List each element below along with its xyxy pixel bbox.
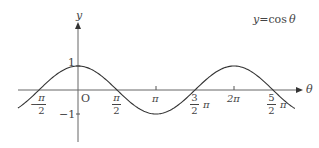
- title-theta: θ: [289, 13, 296, 26]
- y-tick-1: 1: [68, 57, 75, 68]
- chart-title: y=cos θ: [253, 13, 296, 26]
- x-tick-neg-half-pi: π2: [37, 93, 46, 116]
- x-axis-arrow-icon: [296, 87, 303, 93]
- x-tick-five-half-pi-suffix: π: [280, 100, 287, 110]
- x-axis-label: θ: [306, 84, 313, 95]
- x-tick-three-half-pi: 32: [190, 93, 199, 116]
- y-tick-minus-1: −1: [59, 109, 75, 120]
- y-axis-label: y: [76, 10, 82, 21]
- title-cos: cos: [268, 13, 286, 26]
- x-tick-pi: π: [152, 94, 159, 104]
- x-tick-five-half-pi: 52: [267, 93, 276, 116]
- x-tick-half-pi: π2: [112, 93, 121, 116]
- origin-label: O: [81, 93, 90, 104]
- x-tick-two-pi: 2π: [227, 94, 240, 104]
- y-axis-arrow-icon: [75, 22, 81, 29]
- x-tick-three-half-pi-suffix: π: [203, 100, 210, 110]
